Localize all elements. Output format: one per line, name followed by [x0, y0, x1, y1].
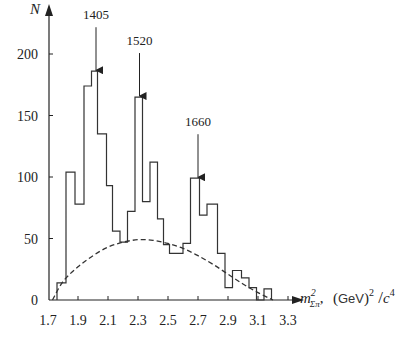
histogram-chart: 050100150200 1.71.92.12.32.52.72.93.13.3…	[0, 0, 419, 341]
x-tick-label: 2.7	[189, 313, 207, 328]
y-tick-label: 150	[17, 109, 38, 124]
y-axis-ticks: 050100150200	[17, 47, 53, 308]
x-title-sub: Σπ	[309, 299, 320, 309]
x-tick-label: 2.3	[129, 313, 147, 328]
x-tick-label: 2.9	[219, 313, 237, 328]
y-tick-label: 0	[31, 293, 38, 308]
peak-label-1405: 1405	[83, 7, 109, 22]
x-axis-ticks: 1.71.92.12.32.52.72.93.13.3	[39, 296, 297, 328]
y-tick-label: 200	[17, 47, 38, 62]
svg-text:m2Σπ,: m2Σπ,	[300, 287, 323, 309]
peak-label-1520: 1520	[127, 33, 153, 48]
x-tick-label: 1.9	[69, 313, 87, 328]
y-axis-title: N	[29, 1, 41, 17]
y-tick-label: 50	[24, 232, 38, 247]
background-dashed-curve	[53, 240, 274, 300]
histogram-steps	[57, 71, 272, 300]
y-tick-label: 100	[17, 170, 38, 185]
x-tick-label: 3.3	[279, 313, 297, 328]
x-tick-label: 3.1	[249, 313, 267, 328]
x-title-unit: GeV	[338, 291, 364, 306]
x-axis-title: m2Σπ, (GeV)2 /c4	[300, 287, 395, 309]
peak-annotations: 140515201660	[83, 7, 211, 177]
peak-label-1660: 1660	[185, 114, 211, 129]
x-tick-label: 1.7	[39, 313, 57, 328]
x-title-sup: 2	[311, 287, 316, 298]
svg-text:(GeV)2 /c4: (GeV)2 /c4	[333, 287, 395, 307]
y-axis-arrow-icon	[45, 4, 53, 16]
x-tick-label: 2.1	[99, 313, 117, 328]
x-tick-label: 2.5	[159, 313, 177, 328]
